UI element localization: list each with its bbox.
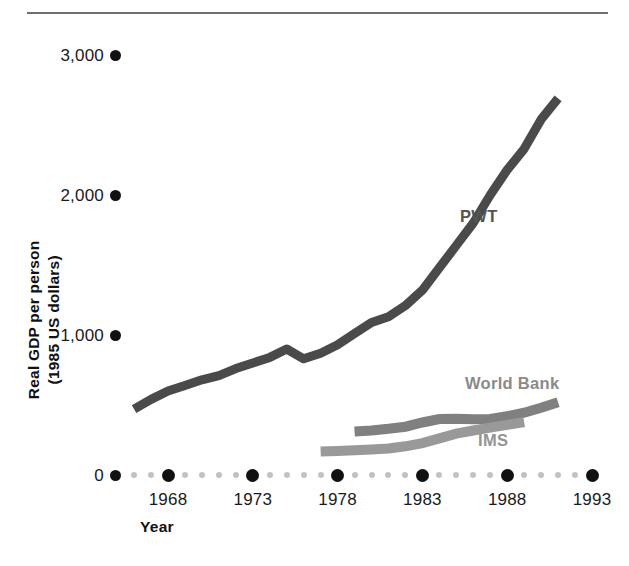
x-tick-dot-minor	[352, 472, 358, 478]
series-line-world-bank	[355, 402, 559, 431]
x-tick-dot-minor	[216, 472, 222, 478]
chart-figure: 01,0002,0003,000 19681973197819831988199…	[0, 0, 629, 566]
y-tick-dot	[110, 50, 121, 61]
x-tick-dot-minor	[301, 472, 307, 478]
x-tick-label: 1993	[552, 491, 629, 508]
x-tick-dot-major	[501, 469, 514, 482]
x-tick-dot-minor	[182, 472, 188, 478]
x-tick-dot-major	[331, 469, 344, 482]
x-tick-dot-minor	[233, 472, 239, 478]
x-tick-label: 1988	[467, 491, 547, 508]
x-tick-label: 1978	[298, 491, 378, 508]
series-line-pwt	[134, 98, 558, 409]
x-tick-dot-minor	[318, 472, 324, 478]
series-label-world-bank: World Bank	[465, 374, 559, 393]
x-tick-dot-minor	[572, 472, 578, 478]
y-axis-title-line2: (1985 US dollars)	[45, 255, 62, 384]
x-tick-dot-major	[586, 469, 599, 482]
y-tick-label: 2,000	[20, 187, 104, 204]
y-axis-title-line1: Real GDP per person	[25, 241, 42, 400]
x-tick-dot-major	[416, 469, 429, 482]
x-tick-label: 1973	[213, 491, 293, 508]
x-tick-dot-minor	[199, 472, 205, 478]
x-axis-title: Year	[140, 518, 174, 536]
series-label-pwt: PWT	[460, 207, 498, 226]
y-tick-label: 3,000	[20, 47, 104, 64]
y-tick-label: 0	[20, 467, 104, 484]
y-tick-dot	[110, 330, 121, 341]
x-tick-dot-minor	[148, 472, 154, 478]
x-tick-dot-major	[162, 469, 175, 482]
x-tick-label: 1968	[128, 491, 208, 508]
series-label-ims: IMS	[478, 431, 508, 450]
x-tick-label: 1983	[382, 491, 462, 508]
y-axis-title: Real GDP per person (1985 US dollars)	[24, 210, 64, 430]
x-tick-dot-minor	[267, 472, 273, 478]
y-tick-dot	[110, 190, 121, 201]
x-tick-dot-minor	[369, 472, 375, 478]
series-layer	[134, 98, 558, 451]
y-tick-dot	[110, 470, 121, 481]
x-tick-dot-major	[246, 469, 259, 482]
x-tick-dot-minor	[284, 472, 290, 478]
